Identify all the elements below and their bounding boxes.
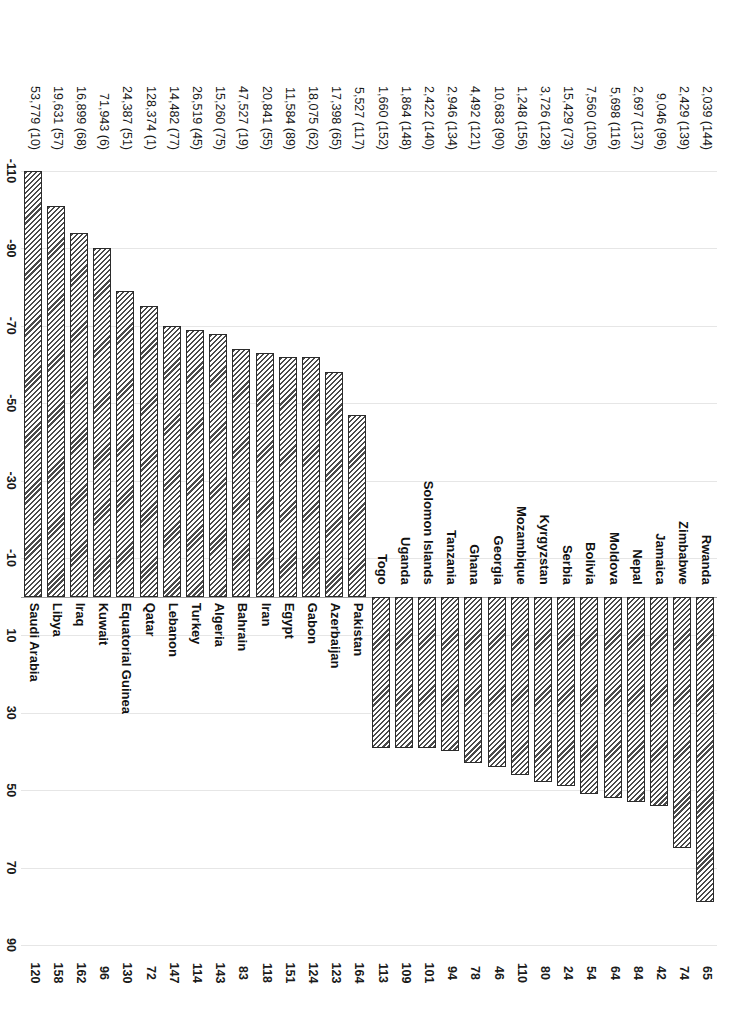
tick-label: -30	[4, 457, 18, 505]
index-rank-value: 118	[260, 953, 274, 993]
index-rank-value: 65	[700, 953, 714, 993]
bar	[116, 291, 134, 597]
bar	[534, 597, 552, 783]
income-per-capita-value: 20,841 (55)	[260, 0, 274, 150]
country-label: Tanzania	[444, 0, 459, 591]
index-rank-value: 94	[445, 953, 459, 993]
bar	[464, 597, 482, 763]
bar	[302, 357, 320, 597]
tick-label: 70	[4, 844, 18, 892]
bar	[604, 597, 622, 798]
index-rank-value: 80	[538, 953, 552, 993]
country-label: Kyrgyzstan	[537, 0, 552, 591]
country-label: Equatorial Guinea	[119, 603, 134, 714]
tick-label: 90	[4, 921, 18, 969]
index-rank-value: 72	[144, 953, 158, 993]
bar	[488, 597, 506, 767]
index-rank-value: 158	[51, 953, 65, 993]
tick-label: 30	[4, 689, 18, 737]
bar	[24, 171, 42, 597]
country-label: Zimbabwe	[676, 0, 691, 591]
country-label: Serbia	[560, 0, 575, 591]
chart-figure: 6574428464542480110467894101109113164123…	[0, 0, 735, 1031]
country-label: Solomon Islands	[421, 0, 436, 591]
country-label: Libya	[50, 603, 65, 637]
index-rank-value: 143	[213, 953, 227, 993]
index-rank-value: 151	[283, 953, 297, 993]
country-label: Gabon	[305, 603, 320, 644]
bar	[348, 415, 366, 597]
bar	[395, 597, 413, 748]
bar	[186, 330, 204, 597]
country-label: Algeria	[212, 603, 227, 647]
bar-series	[0, 0, 735, 1031]
country-label: Kuwait	[96, 603, 111, 646]
country-label: Iran	[259, 603, 274, 627]
country-label: Turkey	[189, 603, 204, 645]
index-rank-value: 101	[422, 953, 436, 993]
bar	[209, 334, 227, 597]
bar	[627, 597, 645, 802]
tick-label: -110	[4, 147, 18, 195]
bar	[418, 597, 436, 748]
index-rank-value: 110	[515, 953, 529, 993]
index-rank-value: 164	[352, 953, 366, 993]
bar	[511, 597, 529, 775]
bar	[70, 233, 88, 597]
index-rank-value: 83	[236, 953, 250, 993]
country-label: Azerbaijan	[328, 603, 343, 669]
index-rank-value: 46	[492, 953, 506, 993]
index-rank-value: 162	[74, 953, 88, 993]
income-per-capita-value: 15,260 (75)	[213, 0, 227, 150]
index-rank-value: 42	[654, 953, 668, 993]
index-rank-value: 124	[306, 953, 320, 993]
income-per-capita-value: 24,387 (51)	[120, 0, 134, 150]
income-per-capita-value: 14,482 (77)	[167, 0, 181, 150]
bar	[557, 597, 575, 787]
tick-label: -50	[4, 379, 18, 427]
bar	[673, 597, 691, 849]
country-label: Qatar	[143, 603, 158, 637]
tick-label: -70	[4, 302, 18, 350]
bar	[93, 248, 111, 596]
bar	[580, 597, 598, 794]
country-label: Nepal	[630, 0, 645, 591]
bar	[441, 597, 459, 752]
index-rank-value: 96	[97, 953, 111, 993]
income-per-capita-value: 19,631 (57)	[51, 0, 65, 150]
income-per-capita-value: 16,899 (68)	[74, 0, 88, 150]
bar	[650, 597, 668, 806]
index-rank-value: 147	[167, 953, 181, 993]
country-label: Mozambique	[514, 0, 529, 591]
index-rank-value: 84	[631, 953, 645, 993]
income-per-capita-value: 5,527 (117)	[352, 0, 366, 150]
tick-label: 50	[4, 766, 18, 814]
income-per-capita-value: 18,075 (62)	[306, 0, 320, 150]
bar	[232, 349, 250, 597]
income-per-capita-value: 128,374 (1)	[144, 0, 158, 150]
index-rank-value: 114	[190, 953, 204, 993]
country-label: Moldova	[607, 0, 622, 591]
tick-label: 10	[4, 611, 18, 659]
index-rank-value: 123	[329, 953, 343, 993]
income-per-capita-value: 17,398 (65)	[329, 0, 343, 150]
bar	[47, 206, 65, 597]
index-rank-value: 24	[561, 953, 575, 993]
country-label: Bahrain	[235, 603, 250, 651]
index-rank-value: 64	[608, 953, 622, 993]
index-rank-value: 113	[376, 953, 390, 993]
income-per-capita-value: 47,527 (19)	[236, 0, 250, 150]
country-label: Jamaica	[653, 0, 668, 591]
country-label: Pakistan	[351, 603, 366, 656]
bar	[325, 372, 343, 596]
country-label: Saudi Arabia	[27, 603, 42, 682]
index-rank-value: 54	[584, 953, 598, 993]
country-label: Ghana	[467, 0, 482, 591]
bar	[372, 597, 390, 748]
index-rank-value: 74	[677, 953, 691, 993]
bar	[140, 306, 158, 596]
country-label: Togo	[375, 0, 390, 591]
country-label: Egypt	[282, 603, 297, 639]
income-per-capita-value: 11,584 (89)	[283, 0, 297, 150]
country-label: Lebanon	[166, 603, 181, 657]
